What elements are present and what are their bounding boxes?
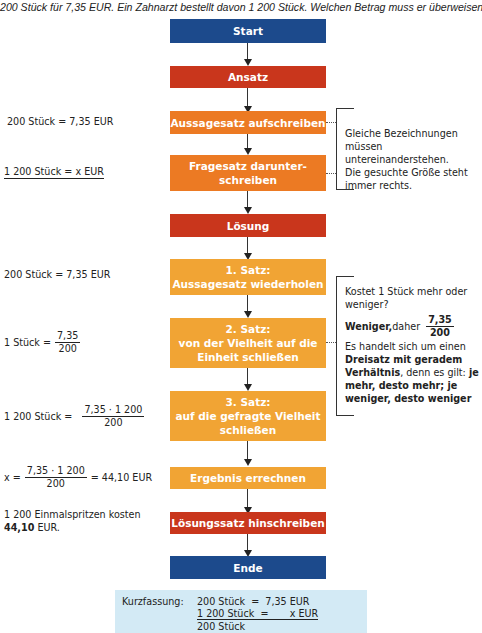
note2-line-4: mehr, desto mehr; je [345,379,482,392]
fragesatz-box: Fragesatz darunter- schreiben [170,155,326,191]
satz3-label-1: 3. Satz: [226,395,271,409]
note2-question-1: Kostet 1 Stück mehr oder [345,285,482,298]
aussage-equation: 200 Stück = 7,35 EUR [7,116,113,127]
ergebnis-prefix: x = [4,472,21,483]
note2-bold-5: weniger, desto weniger [345,393,471,404]
start-box: Start [170,19,326,43]
satz3-label-3: schließen [220,423,276,437]
numerator: 7,35 [426,314,454,327]
denominator: 200 [428,327,452,339]
arrow-down-icon [244,311,252,318]
ergebnis-fraction: 7,35 · 1 200 200 [25,465,87,490]
arrow-down-icon [244,459,252,466]
satz2-label-1: 2. Satz: [226,322,271,336]
arrow-down-icon [244,59,252,66]
ergebnis-equation: x = 7,35 · 1 200 200 = 44,10 EUR [4,465,152,490]
connector-dotted [326,342,336,343]
note-dreisatz: Kostet 1 Stück mehr oder weniger? Wenige… [345,285,482,405]
note2-bold-3: je [469,367,479,378]
answer-amount: 44,10 [4,522,34,533]
arrow-down-icon [244,148,252,155]
answer-line-2: 44,10 EUR. [4,521,141,534]
summary-row-3: 200 Stück [197,621,245,632]
note1-line-1: Gleiche Bezeichnungen [345,127,482,140]
loesungssatz-label: Lösungssatz hinschreiben [171,516,325,530]
note2-question-2: weniger? [345,298,482,311]
note-labels: Gleiche Bezeichnungen müssen untereinand… [345,127,482,192]
satz3-fraction: 7,35 · 1 200 200 [82,404,144,429]
loesungssatz-box: Lösungssatz hinschreiben [170,512,326,534]
note2-answer: Weniger, daher 7,35 200 [345,314,482,339]
answer-currency: EUR. [34,522,60,533]
note2-bold-1: Dreisatz mit geradem [345,354,462,365]
note2-text-2: , denn es gilt: [400,367,469,378]
aussagesatz-box: Aussagesatz aufschreiben [170,111,326,134]
note1-line-3: Die gesuchte Größe steht [345,166,482,179]
numerator: 7,35 [55,330,80,343]
intro-text: 200 Stück für 7,35 EUR. Ein Zahnarzt bes… [0,1,482,13]
start-label: Start [233,24,263,38]
note2-line-5: weniger, desto weniger [345,392,482,405]
denominator: 200 [45,478,67,490]
satz3-label-2: auf die gefragte Vielheit [176,409,321,423]
satz3-prefix: 1 200 Stück = [4,411,72,422]
denominator: 200 [57,343,79,355]
satz3-equation: 1 200 Stück = 7,35 · 1 200 200 [4,404,148,429]
note1-line-2: müssen untereinanderstehen. [345,140,482,166]
numerator: 7,35 · 1 200 [25,465,87,478]
frage-equation: 1 200 Stück = x EUR [4,166,104,179]
ergebnis-suffix: = 44,10 EUR [91,472,152,483]
satz1-equation: 200 Stück = 7,35 EUR [4,269,110,280]
summary-row-1: 200 Stück = 7,35 EUR [197,596,310,607]
summary-box: Kurzfassung: 200 Stück = 7,35 EUR 1 200 … [115,590,367,633]
note2-bold-4: mehr, desto mehr; je [345,380,457,391]
loesung-label: Lösung [227,219,270,233]
ansatz-box: Ansatz [170,66,326,88]
ergebnis-label: Ergebnis errechnen [190,471,306,485]
numerator: 7,35 · 1 200 [82,404,144,417]
note2-line-2: Dreisatz mit geradem [345,353,482,366]
note2-line-1: Es handelt sich um einen [345,340,482,353]
note2-daher: daher [392,320,420,333]
connector-dotted [326,173,336,174]
arrow-down-icon [244,207,252,214]
satz1-box: 1. Satz: Aussagesatz wiederholen [170,259,326,295]
fragesatz-label-2: schreiben [219,173,277,187]
fragesatz-label-1: Fragesatz darunter- [189,159,307,173]
satz2-fraction: 7,35 200 [55,330,80,355]
summary-row-2: 1 200 Stück = x EUR [197,608,318,620]
satz2-label-2: von der Vielheit auf die [179,336,318,350]
connector-dotted [326,122,336,123]
arrow-down-icon [244,384,252,391]
satz2-equation: 1 Stück = 7,35 200 [4,330,84,355]
aussagesatz-label: Aussagesatz aufschreiben [170,116,325,130]
note2-fraction: 7,35 200 [426,314,454,339]
note2-line-3: Verhältnis, denn es gilt: je [345,366,482,379]
summary-label: Kurzfassung: [122,596,184,607]
denominator: 200 [102,417,124,429]
answer-sentence: 1 200 Einmalspritzen kosten 44,10 EUR. [4,508,141,534]
satz2-label-3: Einheit schließen [197,350,299,364]
satz2-box: 2. Satz: von der Vielheit auf die Einhei… [170,318,326,368]
ende-label: Ende [233,561,262,575]
satz1-label-2: Aussagesatz wiederholen [172,277,323,291]
note2-bold-2: Verhältnis [345,367,400,378]
note1-line-4: immer rechts. [345,179,482,192]
answer-line-1: 1 200 Einmalspritzen kosten [4,508,141,521]
satz3-box: 3. Satz: auf die gefragte Vielheit schli… [170,391,326,441]
loesung-box: Lösung [170,214,326,237]
ergebnis-box: Ergebnis errechnen [170,467,326,489]
note2-weniger: Weniger, [345,320,392,333]
satz1-label-1: 1. Satz: [226,263,271,277]
ende-box: Ende [170,556,326,579]
ansatz-label: Ansatz [228,70,268,84]
satz2-prefix: 1 Stück = [4,337,51,348]
